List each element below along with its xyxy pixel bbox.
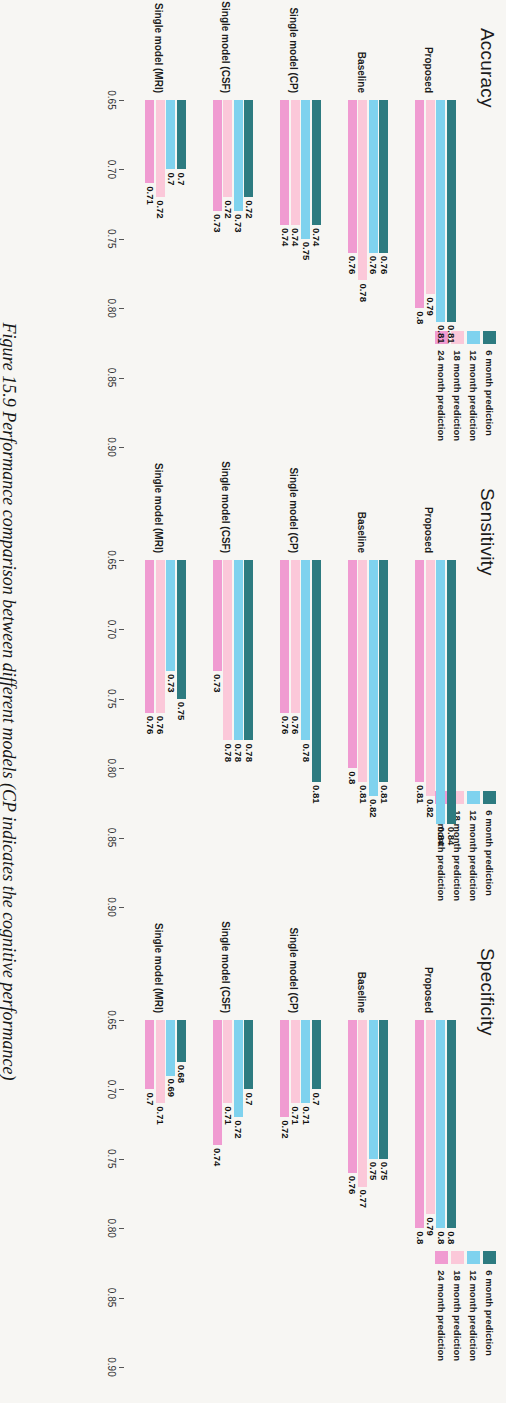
category-label: Baseline	[355, 512, 366, 553]
category-label: Baseline	[355, 52, 366, 93]
bar-value-label: 0.76	[290, 716, 301, 735]
legend-label: 6 month prediction	[484, 1270, 495, 1356]
bar-value-label: 0.72	[222, 200, 233, 219]
category-label: Single model (MRI)	[152, 463, 163, 553]
bar: 0.78	[358, 100, 367, 280]
bar: 0.72	[156, 100, 165, 197]
bar-group: Baseline0.760.760.780.76	[327, 100, 395, 447]
rotated-figure-wrapper: Accuracy6 month prediction12 month predi…	[0, 0, 506, 1403]
bar-value-label: 0.71	[155, 1106, 166, 1125]
bar-value-label: 0.7	[176, 172, 187, 185]
bar: 0.84	[447, 560, 456, 824]
axis-tick	[119, 169, 124, 170]
bar: 0.78	[244, 560, 253, 740]
bar-value-label: 0.8	[415, 311, 426, 324]
category-label: Single model (CP)	[288, 467, 299, 553]
bar-value-label: 0.8	[347, 771, 358, 784]
category-label: Single model (CP)	[288, 927, 299, 1013]
axis-tick-label: 0.65	[106, 90, 117, 109]
bar-group: Single model (MRI)0.680.690.710.7	[124, 1020, 192, 1367]
bar: 0.76	[348, 100, 357, 253]
legend-item: 12 month prediction	[467, 331, 480, 441]
axis-tick	[119, 629, 124, 630]
bar-value-label: 0.72	[279, 1120, 290, 1139]
axis-tick-label: 0.90	[106, 897, 117, 916]
axis-tick	[119, 1089, 124, 1090]
bar: 0.81	[447, 100, 456, 322]
bar-value-label: 0.76	[347, 256, 358, 275]
axis-tick	[119, 907, 124, 908]
axis-tick	[119, 1298, 124, 1299]
legend-item: 12 month prediction	[467, 791, 480, 901]
axis-tick	[119, 838, 124, 839]
bar-value-label: 0.76	[347, 1176, 358, 1195]
bar-value-label: 0.78	[243, 743, 254, 762]
panel-title: Specificity	[476, 948, 498, 1036]
axis-tick	[119, 1228, 124, 1229]
figure-panel-group: Accuracy6 month prediction12 month predi…	[0, 0, 506, 1403]
bar-value-label: 0.69	[165, 1079, 176, 1098]
bar: 0.76	[156, 560, 165, 713]
bar-value-label: 0.7	[144, 1092, 155, 1105]
bar: 0.71	[291, 1020, 300, 1103]
plot-area: Proposed0.80.80.790.8Baseline0.750.750.7…	[124, 1020, 462, 1367]
bar-value-label: 0.76	[144, 716, 155, 735]
axis-tick-label: 0.80	[106, 1218, 117, 1237]
axis-tick-label: 0.80	[106, 298, 117, 317]
bar-value-label: 0.68	[176, 1065, 187, 1084]
bar: 0.7	[166, 100, 175, 169]
axis-tick	[119, 560, 124, 561]
legend-item: 6 month prediction	[483, 791, 496, 901]
bar: 0.75	[301, 100, 310, 239]
bar: 0.7	[312, 1020, 321, 1089]
bar-value-label: 0.71	[222, 1106, 233, 1125]
bar-group: Single model (CP)0.70.710.710.72	[259, 1020, 327, 1367]
bar-value-label: 0.76	[368, 256, 379, 275]
bar-value-label: 0.8	[436, 1231, 447, 1244]
legend-item: 6 month prediction	[483, 1251, 496, 1361]
bar: 0.84	[437, 560, 446, 824]
bar: 0.73	[234, 100, 243, 211]
bar: 0.75	[177, 560, 186, 699]
bar-value-label: 0.75	[300, 242, 311, 261]
bar-value-label: 0.78	[357, 283, 368, 302]
axis-tick-label: 0.85	[106, 1288, 117, 1307]
bar-value-label: 0.81	[446, 325, 457, 344]
chart-panel-accuracy: Accuracy6 month prediction12 month predi…	[66, 14, 506, 457]
bar-value-label: 0.71	[300, 1106, 311, 1125]
axis-tick	[119, 1159, 124, 1160]
bar: 0.71	[223, 1020, 232, 1103]
axis-tick	[119, 100, 124, 101]
bar: 0.82	[369, 560, 378, 796]
bar: 0.7	[177, 100, 186, 169]
bar: 0.81	[312, 560, 321, 782]
bar: 0.81	[437, 100, 446, 322]
bar: 0.76	[291, 560, 300, 713]
axis-tick	[119, 699, 124, 700]
legend-label: 12 month prediction	[468, 1270, 479, 1361]
bar: 0.76	[379, 100, 388, 253]
axis-tick-label: 0.65	[106, 550, 117, 569]
legend-label: 6 month prediction	[484, 350, 495, 436]
axis-tick	[119, 1020, 124, 1021]
axis-tick	[119, 308, 124, 309]
bar-value-label: 0.73	[212, 674, 223, 693]
bar: 0.71	[301, 1020, 310, 1103]
bar-value-label: 0.7	[311, 1092, 322, 1105]
bar-value-label: 0.7	[243, 1092, 254, 1105]
figure-caption: Figure 15.9 Performance comparison betwe…	[0, 0, 19, 1403]
axis-tick-label: 0.70	[106, 1080, 117, 1099]
bar: 0.78	[234, 560, 243, 740]
bar-value-label: 0.77	[357, 1190, 368, 1209]
category-label: Single model (CSF)	[220, 921, 231, 1013]
bar: 0.76	[348, 1020, 357, 1173]
legend-label: 6 month prediction	[484, 810, 495, 896]
bar: 0.79	[426, 100, 435, 294]
bar-value-label: 0.78	[300, 743, 311, 762]
legend-item: 6 month prediction	[483, 331, 496, 441]
bar: 0.78	[223, 560, 232, 740]
bar-value-label: 0.81	[311, 785, 322, 804]
bar: 0.72	[234, 1020, 243, 1117]
bar-value-label: 0.75	[368, 1162, 379, 1181]
bar-group: Single model (CSF)0.780.780.780.73	[192, 560, 260, 907]
